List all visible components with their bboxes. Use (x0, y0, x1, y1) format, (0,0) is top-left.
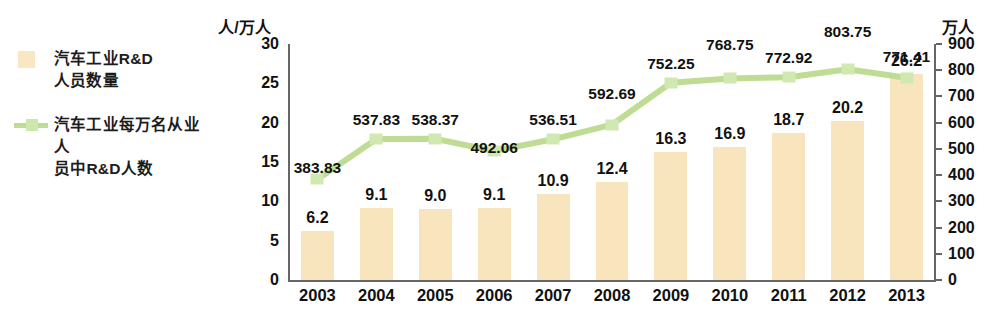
bar-value-label-2003: 6.2 (306, 209, 328, 227)
left-axis-tick-label: 0 (270, 272, 279, 288)
line-value-label-2007: 536.51 (529, 111, 576, 129)
right-axis-tick-mark (936, 227, 942, 229)
line-marker-2004 (370, 133, 383, 144)
legend-entry-bar-series: 汽车工业R&D 人员数量 (14, 48, 214, 92)
combo-chart: 汽车工业R&D 人员数量 汽车工业每万名从业人 员中R&D人数 人/万人 万人 … (0, 0, 997, 310)
legend-label-bar-series: 汽车工业R&D 人员数量 (54, 48, 153, 92)
right-axis-tick-mark (936, 253, 942, 255)
bar-value-label-2004: 9.1 (365, 186, 387, 204)
right-axis-tick-label: 900 (948, 36, 975, 52)
x-axis-tick-label-2011: 2011 (771, 286, 807, 305)
x-axis-tick-label-2005: 2005 (417, 286, 454, 305)
line-marker-2011 (782, 72, 795, 83)
bar-value-label-2009: 16.3 (655, 130, 686, 148)
bar-value-label-2010: 16.9 (714, 125, 745, 143)
line-value-label-2009: 752.25 (647, 55, 694, 73)
x-axis-tick-label-2012: 2012 (829, 286, 866, 305)
right-axis-tick-label: 400 (948, 167, 975, 183)
bar-value-label-2006: 9.1 (483, 186, 505, 204)
line-value-label-2003: 383.83 (294, 159, 341, 177)
line-color-swatch (14, 114, 48, 136)
plot-area: 051015202530 010020030040050060070080090… (288, 44, 936, 282)
left-axis-tick-label: 15 (261, 154, 279, 170)
left-axis-tick-label: 25 (261, 75, 279, 91)
line-value-label-2006: 492.06 (470, 139, 517, 157)
left-axis-tick-label: 30 (261, 36, 279, 52)
x-axis-tick-label-2004: 2004 (358, 286, 395, 305)
line-value-label-2008: 592.69 (588, 85, 635, 103)
right-axis-tick-mark (936, 148, 942, 150)
right-axis-tick-label: 500 (948, 141, 975, 157)
bar-color-swatch (14, 48, 48, 70)
left-axis-tick-label: 10 (261, 193, 279, 209)
right-axis-tick-label: 0 (948, 272, 957, 288)
line-marker-2009 (664, 77, 677, 88)
right-axis-tick-label: 300 (948, 193, 975, 209)
x-axis-tick-label-2008: 2008 (594, 286, 631, 305)
right-axis-tick-label: 600 (948, 115, 975, 131)
chart-legend: 汽车工业R&D 人员数量 汽车工业每万名从业人 员中R&D人数 (14, 48, 214, 202)
bar-value-label-2012: 20.2 (832, 99, 863, 117)
line-value-label-2011: 772.92 (765, 49, 812, 67)
right-axis-tick-mark (936, 200, 942, 202)
data-label-layer: 6.29.19.09.110.912.416.316.918.720.226.2… (288, 44, 936, 282)
line-marker-2010 (723, 73, 736, 84)
right-axis-tick-mark (936, 43, 942, 45)
right-axis-tick-mark (936, 279, 942, 281)
left-axis-tick-label: 20 (261, 115, 279, 131)
left-axis-tick-label: 5 (270, 233, 279, 249)
right-axis-tick-mark (936, 95, 942, 97)
x-axis-tick-label-2013: 2013 (888, 286, 925, 305)
line-marker-2005 (429, 133, 442, 144)
bar-value-label-2008: 12.4 (596, 160, 627, 178)
right-axis-tick-mark (936, 174, 942, 176)
x-axis-tick-label-2006: 2006 (476, 286, 513, 305)
line-marker-2013 (900, 72, 913, 83)
bar-value-label-2011: 18.7 (773, 111, 804, 129)
line-value-label-2012: 803.75 (824, 23, 871, 41)
x-axis-tick-label-2010: 2010 (711, 286, 748, 305)
legend-entry-line-series: 汽车工业每万名从业人 员中R&D人数 (14, 114, 214, 180)
line-value-label-2004: 537.83 (353, 111, 400, 129)
line-value-label-2013: 771.41 (883, 48, 930, 66)
line-marker-2007 (547, 134, 560, 145)
line-value-label-2010: 768.75 (706, 36, 753, 54)
right-axis-tick-label: 200 (948, 220, 975, 236)
right-axis-tick-label: 800 (948, 62, 975, 78)
right-axis-tick-mark (936, 122, 942, 124)
line-value-label-2005: 538.37 (412, 111, 459, 129)
x-axis-tick-label-2007: 2007 (535, 286, 572, 305)
line-marker-2012 (841, 64, 854, 75)
line-marker-2008 (606, 119, 619, 130)
right-axis-tick-mark (936, 69, 942, 71)
x-axis-labels: 2003200420052006200720082009201020112012… (288, 286, 936, 310)
bar-value-label-2005: 9.0 (424, 187, 446, 205)
right-axis-tick-label: 100 (948, 246, 975, 262)
x-axis-tick-label-2009: 2009 (653, 286, 690, 305)
bar-value-label-2007: 10.9 (538, 172, 569, 190)
x-axis-tick-label-2003: 2003 (299, 286, 336, 305)
right-axis-tick-label: 700 (948, 88, 975, 104)
legend-label-line-series: 汽车工业每万名从业人 员中R&D人数 (54, 114, 214, 180)
